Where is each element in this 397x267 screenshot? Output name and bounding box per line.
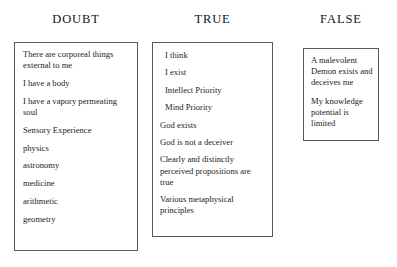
list-item: A malevolent Demon exists and deceives m… [311, 55, 373, 89]
column-header-doubt: DOUBT [14, 13, 138, 26]
list-item: astronomy [23, 160, 130, 171]
list-item: Clearly and distinctly perceived proposi… [160, 154, 266, 188]
list-item: I think [160, 50, 266, 61]
column-box-doubt: There are corporeal things external to m… [14, 42, 138, 251]
list-item: physics [23, 143, 130, 154]
list-item: I have a vapory permeating soul [23, 96, 130, 118]
list-item: There are corporeal things external to m… [23, 49, 130, 71]
list-item: Various metaphysical principles [160, 194, 266, 216]
list-item: medicine [23, 178, 130, 189]
column-box-false-content: A malevolent Demon exists and deceives m… [304, 49, 378, 142]
list-item: God is not a deceiver [160, 137, 266, 148]
column-box-false: A malevolent Demon exists and deceives m… [303, 48, 379, 141]
column-box-true-content: I think I exist Intellect Priority Mind … [153, 43, 272, 229]
list-item: I have a body [23, 78, 130, 89]
list-item: Mind Priority [160, 102, 266, 113]
list-item: I exist [160, 67, 266, 78]
column-header-false: FALSE [303, 13, 379, 26]
column-box-doubt-content: There are corporeal things external to m… [15, 43, 137, 238]
list-item: Sensory Experience [23, 125, 130, 136]
three-column-diagram: DOUBT There are corporeal things externa… [0, 0, 397, 267]
list-item: arithmetic [23, 196, 130, 207]
column-box-true: I think I exist Intellect Priority Mind … [152, 42, 273, 237]
list-item: God exists [160, 120, 266, 131]
column-header-true: TRUE [152, 13, 273, 26]
list-item: geometry [23, 214, 130, 225]
list-item: My knowledge potential is limited [311, 96, 373, 130]
list-item: Intellect Priority [160, 85, 266, 96]
